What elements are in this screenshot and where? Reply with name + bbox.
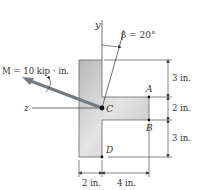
dim-label-bottom-right: 4 in. [117, 178, 136, 188]
beta-arc [102, 45, 120, 47]
beam-cross-section-diagram: y z β = 20° M = 10 kip · in. C A B D 3 i… [0, 0, 199, 190]
angle-label: β = 20° [121, 30, 155, 40]
point-a [148, 96, 151, 99]
point-b-label: B [145, 123, 153, 133]
dim-label-right-bottom: 3 in. [172, 133, 191, 143]
dim-label-right-mid: 2 in. [172, 103, 191, 113]
point-b [148, 119, 151, 122]
moment-label: M = 10 kip · in. [2, 66, 69, 76]
point-d [101, 156, 104, 159]
point-a-label: A [145, 84, 153, 94]
dim-label-right-top: 3 in. [172, 73, 191, 83]
moment-arrowhead-icon [22, 77, 34, 85]
t-section-shape [79, 60, 149, 157]
moment-rotation-icon [46, 78, 50, 92]
dim-label-bottom-left: 2 in. [82, 178, 101, 188]
diagram-canvas: y z β = 20° M = 10 kip · in. C A B D 3 i… [0, 0, 199, 190]
y-axis-label: y [94, 19, 101, 30]
point-c-label: C [106, 103, 114, 114]
point-d-label: D [105, 145, 113, 155]
point-c [100, 106, 105, 111]
z-axis-label: z [23, 103, 29, 113]
beta-angle-line [102, 30, 124, 108]
